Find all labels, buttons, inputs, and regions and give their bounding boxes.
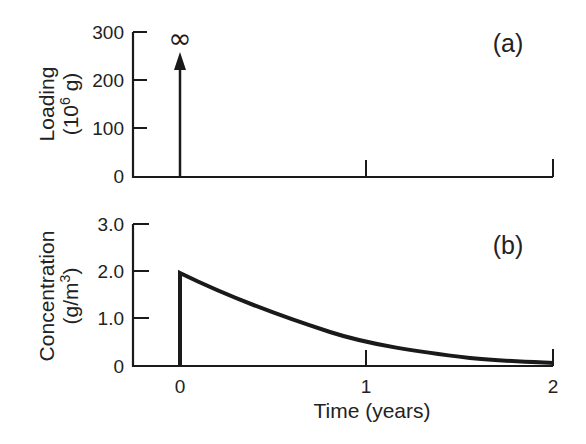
panel-a-ytick-200: 200 — [92, 70, 124, 91]
panel-b-ytick-1: 1.0 — [98, 308, 124, 329]
panel-b-xtick-label-1: 1 — [361, 376, 372, 397]
panel-a-axes — [133, 32, 553, 177]
panel-a-ytick-0: 0 — [113, 166, 124, 187]
panel-a-y-ticks: 300 200 100 0 — [92, 22, 147, 187]
x-axis-title: Time (years) — [313, 399, 430, 422]
panel-b-xtick-label-0: 0 — [175, 376, 186, 397]
figure: Loading (106 g) 300 200 100 0 ∞ (a) Conc… — [0, 0, 586, 444]
infinity-symbol: ∞ — [168, 22, 191, 55]
panel-b-ytick-0: 0 — [113, 356, 124, 377]
panel-b-ytick-2: 2.0 — [98, 261, 124, 282]
panel-a-ytick-300: 300 — [92, 22, 124, 43]
panel-b-axes — [133, 224, 553, 366]
panel-a-ylabel-units: (106 g) — [57, 73, 82, 136]
panel-b-y-axis-title: Concentration (g/m3) — [35, 231, 82, 362]
panel-b-xtick-label-2: 2 — [548, 376, 559, 397]
panel-a-ylabel: Loading — [35, 67, 58, 142]
panel-b-ylabel: Concentration — [35, 231, 58, 362]
panel-a-y-axis-title: Loading (106 g) — [35, 67, 82, 142]
panel-b-ylabel-units: (g/m3) — [57, 268, 82, 325]
impulse-arrow-icon — [174, 52, 186, 177]
panel-b-label: (b) — [493, 231, 524, 259]
panel-a: Loading (106 g) 300 200 100 0 ∞ (a) — [35, 22, 553, 187]
panel-b: Concentration (g/m3) 3.0 2.0 1.0 0 (b) 0… — [35, 214, 558, 422]
panel-a-ytick-100: 100 — [92, 118, 124, 139]
panel-b-y-ticks: 3.0 2.0 1.0 0 — [98, 214, 149, 377]
panel-a-label: (a) — [493, 29, 524, 57]
panel-b-ytick-3: 3.0 — [98, 214, 124, 235]
